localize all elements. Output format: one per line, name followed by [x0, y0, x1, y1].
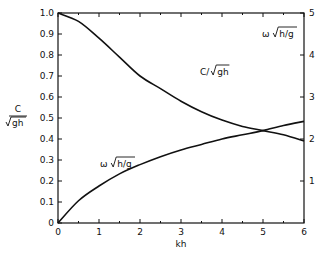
right-y-tick-label: 2 — [309, 134, 315, 144]
x-tick-label: 3 — [178, 227, 184, 237]
x-axis-label: kh — [176, 239, 187, 249]
svg-text:h/g: h/g — [117, 159, 131, 169]
svg-text:gh: gh — [217, 67, 228, 77]
right-y-tick-label: 5 — [309, 8, 315, 18]
y-tick-label: 0.7 — [40, 71, 54, 81]
curve-label-phase-speed: C/gh — [200, 65, 229, 77]
x-tick-label: 4 — [219, 227, 225, 237]
x-tick-label: 5 — [260, 227, 266, 237]
x-tick-label: 6 — [301, 227, 307, 237]
right-axis-label: ω h/g — [262, 27, 297, 39]
right-y-tick-label: 1 — [309, 176, 315, 186]
x-tick-label: 0 — [55, 227, 61, 237]
y-tick-label: 0.6 — [40, 92, 55, 102]
curve-label-frequency: ω h/g — [100, 157, 135, 169]
right-y-tick-label: 3 — [309, 92, 315, 102]
frequency-curve — [58, 121, 304, 223]
x-tick-label: 2 — [137, 227, 143, 237]
axes: 012345600.10.20.30.40.50.60.70.80.91.012… — [40, 8, 315, 237]
svg-text:gh: gh — [12, 118, 23, 128]
plot-frame — [58, 13, 304, 223]
y-tick-label: 0.9 — [40, 29, 55, 39]
y-tick-label: 0.2 — [40, 176, 54, 186]
y-tick-label: 0.5 — [40, 113, 54, 123]
svg-text:C/: C/ — [200, 67, 210, 77]
chart: 012345600.10.20.30.40.50.60.70.80.91.012… — [0, 0, 318, 257]
svg-text:C: C — [15, 104, 21, 114]
y-tick-label: 0.8 — [40, 50, 55, 60]
svg-text:ω: ω — [100, 159, 108, 169]
y-tick-label: 0.1 — [40, 197, 54, 207]
y-tick-label: 0.4 — [40, 134, 55, 144]
y-tick-label: 1.0 — [40, 8, 55, 18]
svg-text:ω: ω — [262, 29, 270, 39]
y-axis-label: Cgh — [6, 104, 27, 128]
y-tick-label: 0.3 — [40, 155, 54, 165]
x-tick-label: 1 — [96, 227, 102, 237]
right-y-tick-label: 4 — [309, 50, 315, 60]
curves — [58, 13, 304, 223]
y-tick-label: 0 — [48, 218, 54, 228]
svg-text:h/g: h/g — [279, 29, 293, 39]
